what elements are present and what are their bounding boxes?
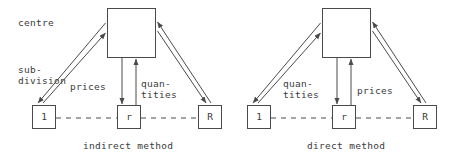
- panel-caption-direct: direct method: [307, 140, 385, 151]
- centre-box-direct: [323, 9, 371, 58]
- centre-annotation-label: centre: [18, 17, 54, 28]
- edge-label-prices-indirect: prices: [70, 81, 106, 92]
- edge-label-quantities-direct-line1: quan-: [283, 78, 313, 89]
- subdivision-annotation-label-line2: division: [18, 75, 66, 86]
- edge-label-quantities-indirect-line2: tities: [141, 89, 177, 100]
- node-label-r-direct: r: [332, 111, 356, 122]
- edge-label-quantities-direct-line2: tities: [283, 89, 319, 100]
- diagram-vector-layer: [0, 0, 455, 160]
- node-label-r-indirect: r: [117, 111, 141, 122]
- edge-label-quantities-indirect-line1: quan-: [141, 78, 171, 89]
- node-label-R-indirect: R: [198, 111, 222, 122]
- edge-label-prices-direct: prices: [357, 85, 393, 96]
- diagonal-arrow-1-to-centre-indirect: [43, 33, 106, 103]
- node-label-1-indirect: 1: [32, 111, 56, 122]
- subdivision-annotation-label-line1: sub-: [18, 64, 42, 75]
- figure-canvas: centre sub- division 1 r R prices quan- …: [0, 0, 455, 160]
- panel-caption-indirect: indirect method: [83, 140, 173, 151]
- node-label-R-direct: R: [413, 111, 437, 122]
- node-label-1-direct: 1: [247, 111, 271, 122]
- centre-box-indirect: [108, 9, 156, 58]
